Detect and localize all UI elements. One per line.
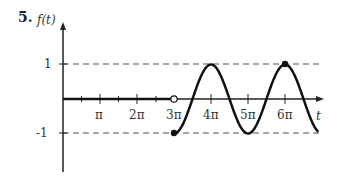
problem-number: 5. [18,9,33,25]
x-tick-label-pi: π [95,108,103,122]
x-tick-label-5pi: 5π [240,108,256,122]
x-axis-label: t [316,109,321,123]
x-tick-label-3pi: 3π [166,108,182,122]
x-tick-label-6pi: 6π [277,108,293,122]
y-axis-label: f(t) [36,13,56,27]
y-tick-label-1: 1 [44,57,52,71]
x-axis-arrow-icon [316,96,324,102]
open-circle-marker [171,96,177,102]
x-tick-label-2pi: 2π [129,108,145,122]
filled-circle-start-marker [171,130,177,136]
piecewise-function-graph: 5. f(t) 1 -1 t π 2π 3π 4π 5π 6π [0,0,338,178]
x-tick-label-4pi: 4π [203,108,219,122]
y-axis-arrow-icon [60,22,66,30]
y-tick-label-neg1: -1 [36,126,48,140]
filled-circle-peak-marker [282,61,288,67]
